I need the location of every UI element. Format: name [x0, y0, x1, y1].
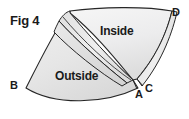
vertex-label-d: D: [172, 7, 180, 18]
vertex-label-a: A: [135, 89, 143, 100]
region-label-outside: Outside: [55, 70, 98, 82]
vertex-label-c: C: [145, 83, 153, 94]
figure-container: Fig 4 Inside Outside A B C D: [0, 0, 189, 119]
vertex-label-b: B: [10, 80, 18, 91]
region-label-inside: Inside: [100, 25, 133, 37]
figure-caption: Fig 4: [10, 14, 39, 27]
